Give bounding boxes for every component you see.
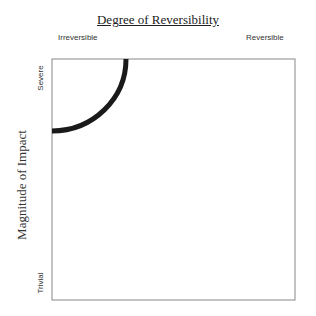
plot-box — [52, 59, 295, 300]
impact-arc — [52, 59, 126, 131]
diagram-canvas — [0, 0, 316, 316]
